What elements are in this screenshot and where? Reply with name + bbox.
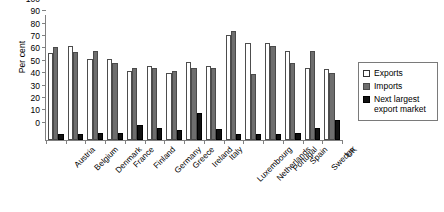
y-axis-tick: 100 — [16, 0, 46, 7]
x-axis-tick-mark — [322, 140, 323, 144]
bar-group — [166, 16, 182, 140]
y-axis-tick-label: 0 — [16, 118, 40, 128]
y-axis-tick-label: 100 — [16, 0, 40, 4]
bar-group — [245, 16, 261, 140]
bar-group — [305, 16, 321, 140]
y-axis-tick-mark — [42, 23, 46, 24]
bar-imports — [73, 52, 78, 140]
x-axis-tick-mark — [66, 140, 67, 144]
x-axis-tick-mark — [283, 140, 284, 144]
bar-group — [127, 16, 143, 140]
x-axis-line — [45, 140, 343, 141]
x-axis-tick-mark — [204, 140, 205, 144]
legend-item-label: Imports — [374, 81, 402, 91]
bar-nextmkt — [236, 134, 241, 140]
bar-group — [285, 16, 301, 140]
x-axis-tick-mark — [263, 140, 264, 144]
legend-item[interactable]: Next largest export market — [363, 94, 433, 114]
bar-group — [48, 16, 64, 140]
bar-group — [87, 16, 103, 140]
bar-nextmkt — [335, 120, 340, 140]
x-axis-tick-mark — [145, 140, 146, 144]
chart-figure: Per cent 0102030405060708090100 AustriaB… — [0, 0, 444, 212]
bar-nextmkt — [256, 134, 261, 140]
y-axis-tick-mark — [42, 47, 46, 48]
y-axis-tick-label: 10 — [16, 105, 40, 115]
x-axis-tick-mark — [342, 140, 343, 144]
bar-group — [324, 16, 340, 140]
y-axis-tick-label: 40 — [16, 68, 40, 78]
x-axis-tick-mark — [184, 140, 185, 144]
x-axis-tick-mark — [224, 140, 225, 144]
bar-nextmkt — [137, 125, 142, 140]
legend-item-label: Exports — [374, 68, 403, 78]
bar-group — [186, 16, 202, 140]
x-axis-tick-mark — [303, 140, 304, 144]
chart-legend: ExportsImportsNext largest export market — [358, 62, 438, 121]
bar-nextmkt — [118, 133, 123, 140]
y-axis-tick-label: 80 — [16, 19, 40, 29]
legend-item-label: Next largest export market — [374, 94, 433, 114]
x-axis-tick-mark — [85, 140, 86, 144]
bar-nextmkt — [58, 134, 63, 140]
y-axis-tick-label: 50 — [16, 56, 40, 66]
legend-swatch-exports-icon — [363, 70, 370, 77]
x-axis-tick-mark — [125, 140, 126, 144]
y-axis-tick-mark — [42, 10, 46, 11]
bar-group — [147, 16, 163, 140]
legend-item[interactable]: Imports — [363, 81, 433, 91]
plot-area: 0102030405060708090100 AustriaBelgiumDen… — [46, 16, 342, 140]
y-axis-tick-mark — [42, 72, 46, 73]
bar-imports — [53, 47, 58, 140]
bar-group — [107, 16, 123, 140]
bar-nextmkt — [197, 113, 202, 140]
x-axis-tick-mark — [243, 140, 244, 144]
bar-imports — [93, 51, 98, 140]
y-axis-tick-mark — [42, 109, 46, 110]
y-axis-tick-label: 60 — [16, 43, 40, 53]
legend-swatch-imports-icon — [363, 83, 370, 90]
bar-group — [68, 16, 84, 140]
y-axis-tick-mark — [42, 60, 46, 61]
bar-imports — [231, 31, 236, 140]
bar-nextmkt — [78, 134, 83, 140]
y-axis-tick-mark — [42, 35, 46, 36]
y-axis-tick-label: 90 — [16, 6, 40, 16]
y-axis-tick-mark — [42, 85, 46, 86]
x-axis-label: Finland — [152, 145, 177, 170]
bar-nextmkt — [98, 133, 103, 140]
bar-group — [265, 16, 281, 140]
bar-nextmkt — [177, 130, 182, 140]
bar-nextmkt — [157, 128, 162, 140]
y-axis-tick-mark — [42, 122, 46, 123]
y-axis-tick-label: 20 — [16, 93, 40, 103]
legend-item[interactable]: Exports — [363, 68, 433, 78]
legend-swatch-nextmkt-icon — [363, 96, 370, 103]
bar-nextmkt — [295, 133, 300, 140]
bar-nextmkt — [216, 129, 221, 140]
y-axis-tick-label: 70 — [16, 31, 40, 41]
y-axis-tick-mark — [42, 97, 46, 98]
bar-nextmkt — [276, 134, 281, 140]
bar-imports — [251, 74, 256, 140]
bar-nextmkt — [315, 128, 320, 140]
x-axis-tick-mark — [105, 140, 106, 144]
bar-imports — [270, 46, 275, 140]
y-axis-tick-label: 30 — [16, 81, 40, 91]
x-axis-tick-mark — [164, 140, 165, 144]
x-axis-tick-mark — [46, 140, 47, 144]
bar-imports — [112, 63, 117, 140]
bar-group — [226, 16, 242, 140]
bar-group — [206, 16, 222, 140]
bar-imports — [310, 51, 315, 140]
bar-imports — [290, 63, 295, 140]
